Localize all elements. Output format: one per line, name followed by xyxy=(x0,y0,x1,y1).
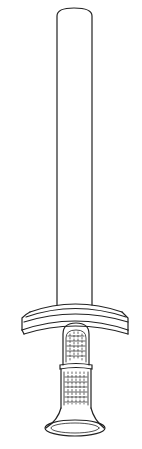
pommel xyxy=(45,408,105,436)
grip xyxy=(60,323,92,408)
crossguard xyxy=(22,304,128,334)
blade xyxy=(57,8,92,305)
sword-illustration xyxy=(0,0,142,449)
figure-caption xyxy=(0,438,142,449)
